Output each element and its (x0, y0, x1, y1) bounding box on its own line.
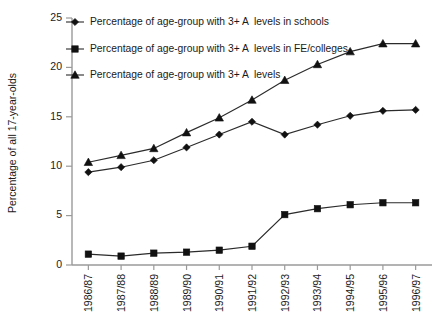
data-point-diamond (150, 157, 157, 164)
legend-entry-diamond: Percentage of age-group with 3+ A levels… (66, 16, 329, 27)
data-point-triangle (150, 144, 158, 151)
y-tick-label: 5 (56, 208, 62, 220)
y-axis-ticks: 0510152025 (50, 11, 72, 270)
data-point-square (314, 205, 320, 211)
data-point-square (151, 250, 157, 256)
x-tick-label: 1995/96 (377, 274, 389, 312)
data-point-square (183, 249, 189, 255)
data-point-square (380, 200, 386, 206)
legend-entry-triangle: Percentage of age-group with 3+ A levels (66, 69, 280, 80)
y-tick-label: 25 (50, 11, 62, 23)
data-point-diamond (314, 121, 321, 128)
data-point-diamond (248, 118, 255, 125)
data-point-triangle (313, 60, 321, 67)
data-point-square (85, 251, 91, 257)
x-axis-ticks: 1986/871987/881988/891989/901990/911991/… (82, 265, 421, 312)
data-point-square (347, 202, 353, 208)
line-chart: Percentage of all 17-year-olds 051015202… (0, 0, 440, 332)
data-point-triangle (281, 76, 289, 83)
x-tick-label: 1994/95 (344, 274, 356, 312)
chart-container: Percentage of all 17-year-olds 051015202… (0, 0, 440, 332)
axis-lines (72, 18, 432, 265)
x-tick-label: 1996/97 (410, 274, 422, 312)
data-point-square (216, 247, 222, 253)
x-tick-label: 1987/88 (115, 274, 127, 312)
x-tick-label: 1988/89 (148, 274, 160, 312)
x-tick-label: 1991/92 (246, 274, 258, 312)
x-tick-label: 1993/94 (311, 274, 323, 312)
data-point-diamond (347, 112, 354, 119)
x-tick-label: 1986/87 (82, 274, 94, 312)
data-point-triangle (215, 114, 223, 121)
y-axis-title: Percentage of all 17-year-olds (6, 73, 18, 213)
legend-label: Percentage of age-group with 3+ A levels… (90, 43, 348, 54)
y-tick-label: 15 (50, 110, 62, 122)
data-point-square (282, 211, 288, 217)
legend-entry-square: Percentage of age-group with 3+ A levels… (66, 43, 348, 54)
data-point-square (249, 243, 255, 249)
data-point-square (412, 200, 418, 206)
data-point-diamond (281, 131, 288, 138)
legend-label: Percentage of age-group with 3+ A levels (90, 69, 280, 80)
data-point-square (118, 253, 124, 259)
data-point-triangle (182, 128, 190, 135)
series-square (85, 200, 419, 260)
data-point-diamond (412, 106, 419, 113)
x-tick-label: 1990/91 (213, 274, 225, 312)
data-point-diamond (379, 107, 386, 114)
x-tick-label: 1989/90 (181, 274, 193, 312)
data-point-diamond (216, 131, 223, 138)
y-tick-label: 20 (50, 60, 62, 72)
y-tick-label: 0 (56, 258, 62, 270)
data-point-diamond (117, 164, 124, 171)
x-tick-label: 1992/93 (279, 274, 291, 312)
data-point-triangle (248, 96, 256, 103)
data-point-square (72, 46, 78, 52)
y-axis-title-label: Percentage of all 17-year-olds (6, 73, 18, 213)
legend-label: Percentage of age-group with 3+ A levels… (90, 16, 329, 27)
series-triangle (84, 39, 420, 165)
y-tick-label: 10 (50, 159, 62, 171)
data-point-diamond (85, 169, 92, 176)
series-diamond (85, 106, 419, 175)
data-point-diamond (183, 144, 190, 151)
